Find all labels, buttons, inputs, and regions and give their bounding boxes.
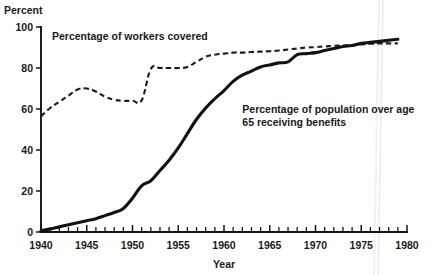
x-tick-label: 1970 — [304, 239, 328, 251]
y-axis-label: Percent — [4, 4, 43, 16]
line-chart-canvas: 0204060801001940194519501955196019651970… — [0, 0, 431, 275]
x-tick-label: 1965 — [258, 239, 282, 251]
population-benefits-label: 65 receiving benefits — [242, 116, 346, 128]
y-tick-label: 100 — [15, 21, 33, 33]
workers-covered-label: Percentage of workers covered — [52, 30, 208, 42]
series-line-population-benefits — [41, 39, 398, 230]
x-tick-label: 1955 — [167, 239, 191, 251]
x-tick-label: 1950 — [121, 239, 145, 251]
x-tick-label: 1940 — [29, 239, 53, 251]
y-tick-label: 40 — [21, 144, 33, 156]
axes — [36, 27, 407, 232]
x-axis-label: Year — [213, 258, 235, 270]
y-tick-label: 80 — [21, 62, 33, 74]
x-tick-label: 1960 — [212, 239, 236, 251]
x-tick-label: 1945 — [75, 239, 99, 251]
y-tick-label: 60 — [21, 103, 33, 115]
x-tick-label: 1975 — [350, 239, 374, 251]
population-benefits-label: Percentage of population over age — [242, 103, 414, 115]
x-tick-label: 1980 — [395, 239, 419, 251]
y-tick-label: 20 — [21, 185, 33, 197]
data-series — [41, 39, 398, 230]
y-tick-label: 0 — [27, 226, 33, 238]
chart-figure: 0204060801001940194519501955196019651970… — [0, 0, 431, 275]
